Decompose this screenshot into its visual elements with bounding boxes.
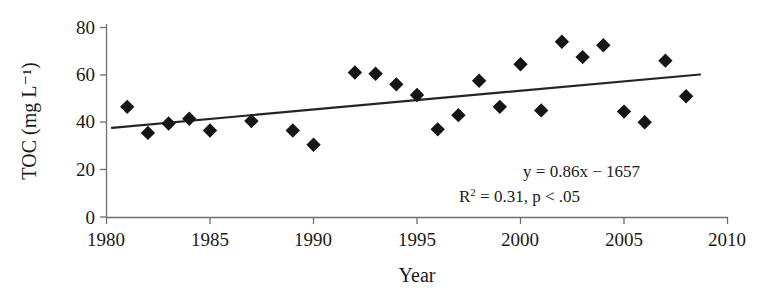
chart-canvas: 80 60 40 20 0 1980 1985 1990 1995 2000 2… [0,0,776,293]
x-tick-label-2000: 2000 [501,229,539,250]
data-point-marker [306,138,320,152]
x-tick-label-1985: 1985 [191,229,229,250]
data-point-marker [493,100,507,114]
data-point-marker [120,100,134,114]
x-tick-label-2010: 2010 [708,229,746,250]
y-axis-title: TOC (mg L⁻¹) [18,62,41,179]
annotation-stats-prefix: R [459,187,471,206]
y-tick-label-80: 80 [76,17,95,38]
data-point-marker [286,123,300,137]
data-point-marker [617,104,631,118]
data-point-marker [513,57,527,71]
y-tick-label-0: 0 [86,207,96,228]
y-tick-label-60: 60 [76,64,95,85]
data-point-marker [161,116,175,130]
data-point-group [120,35,693,152]
data-point-marker [679,89,693,103]
annotation-equation: y = 0.86x − 1657 [523,162,640,181]
data-point-marker [575,50,589,64]
x-axis-title: Year [399,264,436,286]
x-tick-label-1980: 1980 [87,229,125,250]
x-tick-label-2005: 2005 [605,229,643,250]
data-point-marker [431,122,445,136]
data-point-marker [555,35,569,49]
y-tick-label-20: 20 [76,159,95,180]
data-point-marker [141,126,155,140]
data-point-marker [451,108,465,122]
annotation-stats: R2 = 0.31, p < .05 [459,186,580,206]
toc-year-scatter-figure: 80 60 40 20 0 1980 1985 1990 1995 2000 2… [0,0,776,293]
data-point-marker [534,103,548,117]
x-tick-label-1990: 1990 [294,229,332,250]
data-point-marker [596,38,610,52]
data-point-marker [638,115,652,129]
data-point-marker [368,66,382,80]
data-point-marker [203,123,217,137]
data-point-marker [658,53,672,67]
y-tick-label-40: 40 [76,111,95,132]
data-point-marker [472,74,486,88]
data-point-marker [389,77,403,91]
annotation-stats-rest: = 0.31, p < .05 [476,187,580,206]
data-point-marker [182,111,196,125]
x-tick-label-1995: 1995 [398,229,436,250]
regression-trend-line [112,75,700,128]
data-point-marker [348,65,362,79]
